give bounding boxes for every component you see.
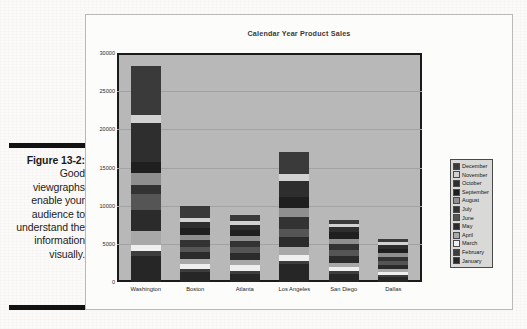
y-axis-tick-label: 5000 (75, 241, 115, 247)
legend-item[interactable]: May (453, 222, 489, 231)
bar-column (180, 206, 210, 282)
bar-segment (230, 253, 260, 260)
legend-item-label: February (462, 248, 484, 257)
legend-item[interactable]: March (453, 239, 489, 248)
legend-swatch-icon (453, 180, 460, 187)
bar-segment (131, 231, 161, 246)
legend-item-label: June (462, 214, 474, 223)
legend-swatch-icon (453, 206, 460, 213)
bar-segment (131, 66, 161, 115)
scanned-page: Figure 13-2: Good viewgraphs enable your… (0, 0, 527, 329)
caption-rule-top (9, 143, 85, 148)
caption-rule-bottom (9, 305, 85, 310)
legend-swatch-icon (453, 240, 460, 247)
bar-segment (131, 173, 161, 185)
legend-swatch-icon (453, 163, 460, 170)
legend-item-label: December (462, 162, 487, 171)
bar-segment (180, 272, 210, 282)
caption-body-text: Good viewgraphs enable your audience to … (9, 167, 85, 261)
bar-segment (131, 210, 161, 231)
x-axis-tick-label: Washington (123, 286, 169, 292)
x-axis-tick-label: Los Angeles (271, 286, 317, 292)
legend-item[interactable]: November (453, 171, 489, 180)
bar-group (117, 53, 422, 282)
legend-item-label: September (462, 188, 489, 197)
legend-item-label: October (462, 179, 482, 188)
bar-segment (279, 229, 309, 237)
x-axis-tick-label: Atlanta (222, 286, 268, 292)
chart-plot: 050001000015000200002500030000 (117, 53, 422, 282)
bar-segment (329, 274, 359, 282)
legend-item[interactable]: February (453, 248, 489, 257)
legend-item-label: January (462, 257, 482, 266)
legend-item[interactable]: January (453, 257, 489, 266)
bar-column (329, 220, 359, 282)
bar-segment (279, 237, 309, 247)
bar-segment (131, 162, 161, 173)
bar-column (131, 66, 161, 282)
x-axis-tick-label: San Diego (321, 286, 367, 292)
legend-item[interactable]: October (453, 179, 489, 188)
bar-segment (279, 174, 309, 181)
bar-segment (131, 123, 161, 163)
chart-title: Calendar Year Product Sales (86, 29, 512, 38)
bar-column (279, 152, 309, 282)
legend-swatch-icon (453, 257, 460, 264)
legend-item[interactable]: April (453, 231, 489, 240)
legend-item-label: August (462, 196, 479, 205)
bar-segment (279, 152, 309, 174)
bar-segment (131, 185, 161, 194)
bar-segment (279, 181, 309, 196)
x-axis-tick-label: Boston (172, 286, 218, 292)
y-axis-tick-label: 20000 (75, 126, 115, 132)
legend-swatch-icon (453, 189, 460, 196)
legend-item[interactable]: September (453, 188, 489, 197)
bar-segment (180, 252, 210, 259)
legend-item-label: July (462, 205, 472, 214)
legend-swatch-icon (453, 214, 460, 221)
x-axis-labels: WashingtonBostonAtlantaLos AngelesSan Di… (117, 286, 422, 292)
legend-swatch-icon (453, 223, 460, 230)
chart-legend: DecemberNovemberOctoberSeptemberAugustJu… (450, 159, 493, 268)
legend-item[interactable]: July (453, 205, 489, 214)
bar-segment (279, 197, 309, 208)
y-axis-tick-label: 30000 (75, 50, 115, 56)
legend-item[interactable]: December (453, 162, 489, 171)
legend-item-label: April (462, 231, 473, 240)
figure-caption: Figure 13-2: Good viewgraphs enable your… (9, 143, 85, 261)
legend-swatch-icon (453, 171, 460, 178)
legend-item-label: March (462, 239, 477, 248)
bar-segment (131, 256, 161, 282)
x-axis-tick-label: Dallas (370, 286, 416, 292)
caption-text: Figure 13-2: Good viewgraphs enable your… (9, 154, 85, 261)
bar-segment (131, 115, 161, 123)
figure-frame: Calendar Year Product Sales 050001000015… (85, 14, 513, 310)
bar-segment (180, 228, 210, 235)
bar-column (230, 215, 260, 282)
legend-item[interactable]: June (453, 214, 489, 223)
legend-swatch-icon (453, 249, 460, 256)
bar-segment (279, 255, 309, 262)
bar-segment (279, 217, 309, 228)
bar-segment (279, 247, 309, 255)
bar-segment (180, 206, 210, 218)
caption-figure-number: Figure 13-2: (9, 154, 85, 167)
y-axis-tick-label: 10000 (75, 203, 115, 209)
legend-item-label: May (462, 222, 472, 231)
bar-column (378, 239, 408, 282)
legend-swatch-icon (453, 197, 460, 204)
legend-item-label: November (462, 171, 487, 180)
legend-item[interactable]: August (453, 196, 489, 205)
legend-swatch-icon (453, 232, 460, 239)
y-axis-tick-label: 0 (75, 279, 115, 285)
y-axis-tick-label: 15000 (75, 165, 115, 171)
bar-segment (279, 208, 309, 217)
bar-segment (378, 277, 408, 282)
bar-segment (230, 274, 260, 282)
bar-segment (279, 264, 309, 282)
bar-segment (329, 256, 359, 263)
bar-segment (131, 194, 161, 209)
y-axis-tick-label: 25000 (75, 88, 115, 94)
